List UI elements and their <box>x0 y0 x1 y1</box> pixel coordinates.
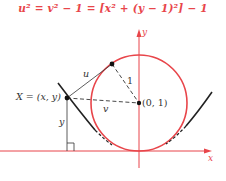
y-segment-label: y <box>59 116 64 127</box>
x-axis-label: x <box>208 153 213 163</box>
center-dot <box>137 101 141 105</box>
diagram: u² = v² − 1 = [x² + (y − 1)²] − 1 <box>0 0 226 181</box>
segment-radius <box>112 64 139 103</box>
curve-right-dashed <box>166 126 186 144</box>
curve-left-dashed <box>95 130 112 145</box>
y-axis-label: y <box>142 27 147 37</box>
point-X-dot <box>65 96 70 101</box>
segment-u <box>67 64 112 98</box>
tangent-point-dot <box>110 62 115 67</box>
right-angle-icon <box>67 143 74 151</box>
point-X-label: X = (x, y) <box>16 91 61 102</box>
y-axis-arrow-icon <box>137 29 142 37</box>
curve-right <box>186 92 212 126</box>
u-label: u <box>83 68 89 79</box>
y-axis <box>137 29 142 168</box>
v-label: v <box>103 103 108 114</box>
center-label: (0, 1) <box>142 97 168 108</box>
radius-label: 1 <box>127 75 133 86</box>
x-axis <box>0 149 212 154</box>
